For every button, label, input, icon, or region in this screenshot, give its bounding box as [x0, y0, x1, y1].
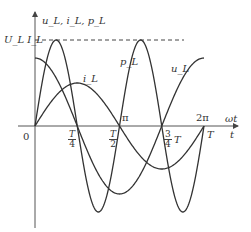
p-curve-label: p_L — [120, 57, 138, 67]
i-curve-label: i_L — [83, 74, 98, 84]
tick-pi: π — [122, 113, 129, 123]
tick-three-quarter-T-suffix: T — [174, 135, 181, 145]
inductor-power-diagram: u_L, i_L, p_L U_L I_L 0 p_L u_L i_L π 2π… — [0, 0, 251, 232]
x-axis-label-t: t — [230, 130, 234, 140]
origin-label: 0 — [23, 132, 29, 142]
tick-half-T: T 2 — [109, 130, 117, 149]
tick-three-quarter-T: 3 4 — [164, 130, 172, 149]
tick-quarter-T: T 4 — [68, 130, 76, 149]
y-axis-label: u_L, i_L, p_L — [42, 16, 106, 26]
x-axis-label-omega-t: ωt — [225, 114, 237, 124]
tick-2pi: 2π — [196, 113, 209, 123]
tick-T: T — [207, 130, 214, 140]
peak-label: U_L I_L — [4, 35, 43, 45]
u-curve-label: u_L — [171, 64, 189, 74]
